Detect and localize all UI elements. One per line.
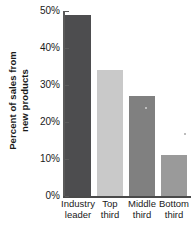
bar <box>129 96 155 196</box>
y-axis-tick-label: 40% <box>40 43 60 53</box>
y-axis-tick-mark <box>65 159 69 160</box>
y-axis-title-line-2: new products <box>18 69 29 132</box>
y-axis-tick-mark <box>65 11 69 12</box>
x-axis-category-label: Bottomthird <box>154 198 194 220</box>
bar-chart: Percent of sales from new products 50%40… <box>0 0 194 232</box>
y-axis-title-line-1: Percent of sales from <box>7 51 18 150</box>
bar-series <box>63 11 191 196</box>
bar <box>161 155 187 196</box>
y-axis-tick-label: 30% <box>40 80 60 90</box>
bar <box>65 15 91 196</box>
plot-area <box>63 11 191 196</box>
x-axis-category-label-line-1: Bottom <box>159 198 189 209</box>
y-axis-tick-label: 50% <box>40 6 60 16</box>
x-axis-category-label-line-1: Middle <box>128 198 156 209</box>
y-axis-tick-mark <box>65 48 69 49</box>
bar <box>97 70 123 196</box>
y-axis-tick-mark <box>65 196 69 197</box>
x-axis-category-label-line-1: Top <box>102 198 117 209</box>
y-axis-tick-label: 20% <box>40 117 60 127</box>
y-axis-tick-mark <box>65 122 69 123</box>
scan-artifact <box>184 133 186 135</box>
x-axis-category-label-line-2: third <box>154 209 194 220</box>
x-axis-category-labels: IndustryleaderTopthirdMiddlethirdBottomt… <box>63 198 194 228</box>
y-axis-tick-mark <box>65 85 69 86</box>
y-axis-tick-label: 10% <box>40 154 60 164</box>
y-axis-title: Percent of sales from new products <box>0 0 36 200</box>
scan-artifact <box>145 107 147 109</box>
